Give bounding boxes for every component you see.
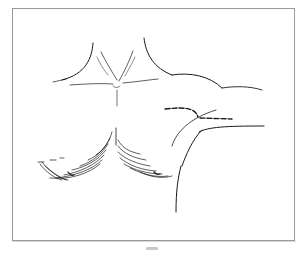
lateral-chest-lower	[176, 166, 181, 212]
upper-dashed-incision	[165, 108, 198, 117]
arm-underside-line	[199, 126, 264, 132]
arm-top-line	[222, 87, 262, 90]
right-neck-line	[144, 38, 172, 75]
left-breast-contour	[38, 132, 112, 180]
sternal-notch	[113, 86, 120, 106]
lateral-chest-line	[182, 130, 202, 166]
left-neck-line	[62, 43, 93, 80]
left-scm-line	[101, 52, 117, 80]
page-marker	[146, 247, 158, 250]
right-breast-contour	[118, 140, 172, 177]
right-shoulder-top	[172, 74, 222, 88]
right-clavicle	[123, 79, 158, 83]
left-clavicle	[70, 84, 113, 85]
right-scm-line	[119, 51, 133, 81]
chest-illustration	[0, 0, 303, 253]
lower-dashed-incision	[200, 118, 232, 119]
left-scm-inner	[97, 57, 108, 75]
left-clavicle-line	[53, 79, 66, 82]
